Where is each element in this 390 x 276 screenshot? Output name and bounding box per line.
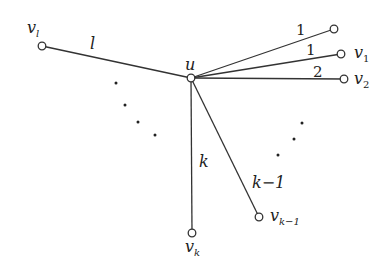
label-u: u	[185, 55, 195, 74]
edge-u-vl	[42, 46, 191, 78]
node-vk1	[255, 213, 263, 221]
edge-u-vk	[191, 78, 192, 233]
label-v2: v2	[354, 69, 369, 90]
edge-u-vk1	[191, 78, 259, 217]
label-vk: vk	[185, 237, 200, 258]
star-graph-diagram: u vl v1 v2 vk−1 vk l 1 1 2 k−1 k	[0, 0, 390, 276]
ellipsis-dot	[137, 121, 140, 124]
ellipsis-dot	[124, 104, 127, 107]
node-vk	[188, 229, 196, 237]
weight-vk: k	[199, 152, 209, 171]
ellipsis-dot	[301, 122, 304, 125]
weight-v1: 1	[306, 41, 316, 59]
node-v1	[337, 50, 345, 58]
node-v2	[340, 75, 348, 83]
node-vl	[38, 42, 46, 50]
node-top	[330, 25, 338, 33]
ellipsis-dot	[115, 82, 118, 85]
label-vl: vl	[27, 18, 39, 39]
label-v1: v1	[354, 43, 369, 64]
weight-vk1: k−1	[252, 173, 285, 192]
weight-v2: 2	[313, 63, 323, 81]
weight-l: l	[90, 34, 95, 53]
ellipsis-dot	[277, 154, 280, 157]
weight-top: 1	[296, 21, 306, 39]
ellipsis-dot	[293, 138, 296, 141]
label-vk1: vk−1	[270, 206, 300, 227]
node-u	[187, 74, 195, 82]
ellipsis-dot	[154, 134, 157, 137]
